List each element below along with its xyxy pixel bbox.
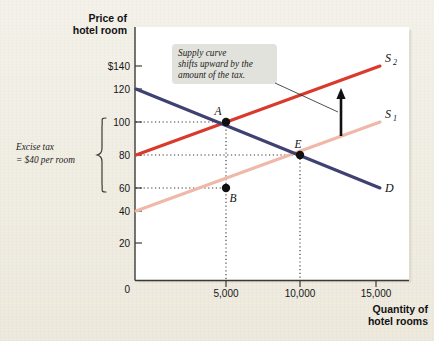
excise-tax-brace xyxy=(97,118,106,192)
x-axis-title-line2: hotel rooms xyxy=(368,315,428,327)
economics-supply-demand-chart: $140 120 100 80 60 40 20 0 5,000 10,000 … xyxy=(0,0,434,341)
excise-tax-note-line1: Excise tax xyxy=(15,142,55,152)
annotation-line-2: shifts upward by the xyxy=(178,59,253,69)
annotation-line-1: Supply curve xyxy=(178,48,226,58)
plot-area-shadow xyxy=(409,30,412,282)
svg-text:2: 2 xyxy=(393,58,397,67)
y-tick-label-20: 20 xyxy=(119,238,131,249)
data-point-label-b: B xyxy=(229,192,236,204)
y-tick-label-140: $140 xyxy=(108,61,131,72)
excise-tax-note-line2: = $40 per room xyxy=(16,155,75,165)
svg-text:S: S xyxy=(385,107,391,121)
x-axis-title-line1: Quantity of xyxy=(373,303,429,315)
y-tick-label-60: 60 xyxy=(119,183,131,194)
y-axis-title-line2: hotel room xyxy=(73,24,127,36)
figure-canvas: $140 120 100 80 60 40 20 0 5,000 10,000 … xyxy=(0,0,434,341)
svg-text:S: S xyxy=(385,51,391,65)
data-point-label-e: E xyxy=(293,138,301,150)
x-tick-label-5000: 5,000 xyxy=(213,288,238,299)
data-point-a xyxy=(222,118,230,126)
y-tick-label-100: 100 xyxy=(113,117,130,128)
curve-label-d: D xyxy=(384,181,394,195)
data-point-b xyxy=(222,184,230,192)
y-axis-title-line1: Price of xyxy=(88,12,127,24)
x-tick-label-10000: 10,000 xyxy=(285,288,316,299)
y-tick-label-120: 120 xyxy=(113,84,130,95)
svg-text:1: 1 xyxy=(393,114,397,123)
y-tick-label-0: 0 xyxy=(124,284,130,295)
x-tick-label-15000: 15,000 xyxy=(361,288,392,299)
data-point-e xyxy=(296,151,304,159)
y-tick-label-40: 40 xyxy=(119,206,131,217)
y-tick-label-80: 80 xyxy=(119,150,131,161)
data-point-label-a: A xyxy=(213,105,222,117)
annotation-line-3: amount of the tax. xyxy=(178,70,245,80)
